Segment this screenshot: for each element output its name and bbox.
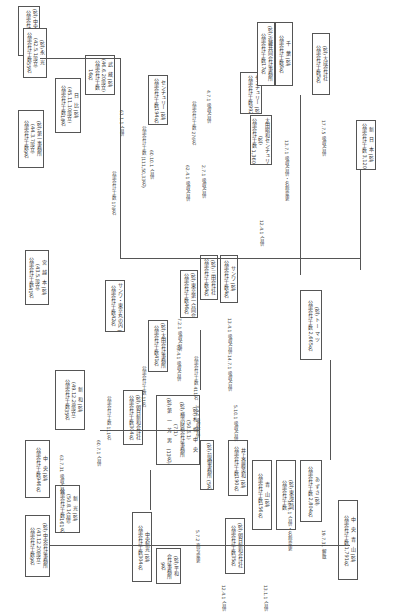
node-tohmatsu: (監) ト ー マ ツ 公認会計士数 2,665名 xyxy=(300,290,322,360)
connector xyxy=(120,58,121,258)
event-label: 16.1.1 合併・名称変更 xyxy=(286,500,292,551)
event-label: 13.4.1 吸収合併 xyxy=(226,318,232,354)
connector xyxy=(100,430,200,431)
event-label: 61.1.1 合併 xyxy=(118,110,124,136)
node-musashi: 武 蔵 (監) (46.6.20設立) 公認会計士数 16名 xyxy=(85,55,115,95)
node-shin-nihon-center: 太田昭和センチュリー (監) 公認会計士数 1,360名 xyxy=(250,115,272,165)
node-aoyama: 青 山 (監) 公認会計士数156名 xyxy=(252,460,272,530)
node-sanwa: (監) 三田会計社 公認会計士数4名 xyxy=(200,255,218,300)
connector xyxy=(200,330,201,390)
count-label: 公認会計士数 178名 xyxy=(110,170,116,215)
node-nagase: (監) 永 光 (42.5.1設立) 公認会計士数55名 xyxy=(23,28,47,78)
event-label: 63.7.31 吸収合併 xyxy=(58,455,64,494)
node-hibiya: 日 比 (監) (45.11.10設立) 公認会計士数18名 xyxy=(55,78,81,133)
event-label: 14.7.1 吸収合併 xyxy=(226,355,232,391)
node-ohta-showa: サンワ (監) 公認会計士数4名 xyxy=(220,255,238,303)
node-inoue: 井上斎藤英和 (監) 公認会計士数190名 xyxy=(228,440,248,496)
node-seiwa: 中 央 (監) 公認会計士数946名 xyxy=(25,440,50,498)
event-label: 3.4.1 吸収合併 xyxy=(194,405,200,438)
node-shinwa: 新 和 (監) (49.12.28設立) 公認会計士数35名 xyxy=(55,370,85,430)
connector xyxy=(360,170,361,270)
count-label: 公認会計士数 11名 xyxy=(140,365,146,407)
count-label: 公認会計士数 111名 xyxy=(105,395,111,440)
connector xyxy=(150,470,151,510)
node-chuo-kaikei: (監) 中央会計事務所 (43.12.20設立) 公認会計士数9名 xyxy=(25,515,50,577)
connector xyxy=(40,58,120,59)
node-heiwa: (監) 平和 会計事務所 9名 xyxy=(156,548,181,584)
node-maebashi: (監) 前橋事務所 (5名) xyxy=(200,440,214,490)
event-label: 5.10.1 吸収合併 xyxy=(232,405,238,441)
node-miyakoshi: 宮 越 本 (監) (43.5.設立) 公認会計士数41名 xyxy=(25,250,49,305)
event-label: 2.7.1 吸収合併 xyxy=(200,165,206,198)
event-label: 13.1.1 合併 xyxy=(262,585,268,611)
node-osaka: (監) 大成会計社 公認会計士数5名 xyxy=(312,33,330,95)
event-label: 12.4.1 合併 xyxy=(220,585,226,611)
node-nihon: 新 日 本 (監) 公認会計士数 3,120名 xyxy=(356,120,376,170)
node-daiichi-jimusho: (監) 第一事務所 (44.3.7設立) 公認会計士数9名 xyxy=(18,110,44,168)
connector xyxy=(120,258,360,259)
count-label: 公認会計士数 276名 xyxy=(190,100,196,145)
count-label: 公認会計士数 411名 xyxy=(192,355,198,400)
event-label: 60.7.1 合併 xyxy=(95,440,101,466)
connector xyxy=(50,545,350,546)
event-label: 7.2.1 吸収合併 xyxy=(176,318,182,351)
node-ohta-tokyo: (監) 太田会計事務所 公認会計士数41名 xyxy=(148,320,168,372)
node-chiba: 千 葉 (監) 公認会計士数6名 xyxy=(275,22,293,86)
connector xyxy=(330,360,331,460)
event-label: 13.7.1 吸収合併・名称変更 xyxy=(283,140,289,201)
event-label: 5.7.2 商号変更 xyxy=(194,530,200,563)
event-label: 4.7.1 吸収合併 xyxy=(205,90,211,123)
event-label: 60.10.1 合併 xyxy=(148,150,154,179)
event-label: 12.4.1 合併 xyxy=(258,220,264,246)
node-showa: (監) 東京第一合同会計 公認会計士数46名 xyxy=(180,270,198,318)
node-kinki: (監) 近畿共同会計事務所 公認会計士数17名 xyxy=(257,22,275,86)
node-century: センチュリー (監) 公認会計士数194名 xyxy=(148,75,168,125)
node-century-ginza: サンワ・東京丸の内 (監) 公認会計士数42名 xyxy=(105,280,125,332)
event-label: 17.7.5 吸収合併 xyxy=(320,120,326,156)
node-chuo-aoyama: 中 央 青 山 (監) 公認会計士数 1,791名 xyxy=(338,500,358,580)
count-label: 公認会計士数 (111,50,33名) xyxy=(140,125,146,188)
node-chuo-shinko: 中央新光 (監) 公認会計士数304名 xyxy=(132,512,152,582)
event-label: 19.7.31 解散 xyxy=(320,530,326,559)
node-azusa: あ ず さ (監) 公認会計士数 2,804名 xyxy=(300,460,322,522)
node-chuo: (監) 朝日新和会計社 公認会計士数35名 xyxy=(225,518,245,574)
connector xyxy=(300,95,301,275)
event-label: 62.4.1 吸収合併 xyxy=(184,165,190,201)
